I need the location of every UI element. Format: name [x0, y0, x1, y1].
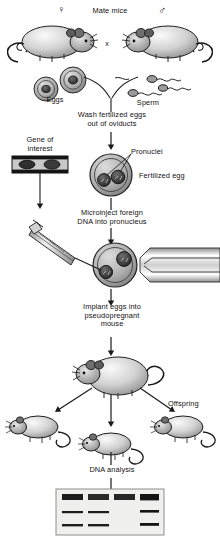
- gel-band-lane-1-middle: [62, 511, 83, 513]
- label-eggs: Eggs: [35, 96, 75, 105]
- gel-band-lane-1-bottom: [62, 524, 83, 526]
- transgenic-mouse-diagram: ♀ Mate mice ♂ x: [0, 0, 220, 545]
- gel-band-lane-2-bottom: [88, 524, 109, 526]
- step-label-microinject: Microinject foreign DNA into pronucleus: [53, 209, 171, 226]
- male-mouse-illustration: [122, 26, 212, 62]
- gene-of-interest-illustration: [12, 156, 68, 209]
- gel-band-lane-4-bottom: [140, 523, 159, 526]
- holding-pipette-illustration: [140, 248, 220, 282]
- offspring-mouse-left-illustration: [5, 416, 70, 447]
- fertilized-egg-illustration: [90, 154, 132, 196]
- gel-well-lane-3: [114, 494, 135, 500]
- gel-well-lane-1: [62, 494, 83, 500]
- gel-well-lane-2: [88, 494, 109, 500]
- step-label-wash-eggs: Wash fertilized eggs out of oviducts: [60, 111, 164, 128]
- arrow-wash-to-egg: [108, 132, 114, 150]
- arrow-implant-to-mouse: [108, 337, 114, 356]
- gel-band-lane-4-middle: [140, 510, 159, 513]
- female-mouse-illustration: [8, 26, 98, 62]
- gel-well-lane-4: [140, 494, 159, 500]
- gel-electrophoresis-illustration: [56, 489, 164, 535]
- label-sperm: Sperm: [128, 99, 168, 108]
- diagram-artwork: [0, 0, 220, 545]
- label-offspring: Offspring: [168, 400, 218, 409]
- microinjection-needle-illustration: [29, 220, 101, 270]
- gel-band-lane-2-middle: [88, 511, 109, 513]
- arrow-to-injection: [108, 228, 114, 245]
- injected-egg-illustration: [93, 243, 137, 287]
- step-label-implant-eggs: Implant eggs into pseudopregnant mouse: [56, 303, 168, 329]
- sperm-illustration: [115, 76, 191, 97]
- step-label-dna-analysis: DNA analysis: [66, 466, 158, 475]
- label-gene-of-interest: Gene of interest: [8, 136, 72, 153]
- label-pronuclei: Pronuclei: [131, 148, 189, 157]
- offspring-mouse-right-illustration: [150, 416, 215, 447]
- label-fertilized-egg: Fertilized egg: [139, 172, 211, 181]
